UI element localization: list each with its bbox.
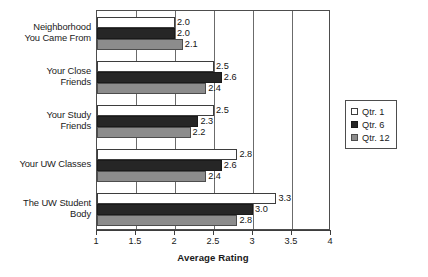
legend-item[interactable]: Qtr. 12 [351, 131, 390, 144]
plot-area: 2.02.02.12.52.62.42.52.32.22.82.62.43.33… [96, 10, 330, 230]
x-axis-tick-label: 2 [171, 236, 176, 246]
bar-row: 2.6 [97, 160, 331, 171]
category-label: The UW StudentBody [0, 197, 91, 220]
x-axis-tick-label: 1 [93, 236, 98, 246]
x-axis-tick [213, 230, 214, 235]
x-axis-tick-label: 3 [249, 236, 254, 246]
bar-value-label: 2.8 [237, 149, 252, 159]
bar-row: 2.0 [97, 28, 331, 39]
chart-legend: Qtr. 1Qtr. 6Qtr. 12 [345, 100, 397, 149]
bar-row: 2.2 [97, 127, 331, 138]
bar-value-label: 2.1 [183, 39, 198, 49]
bar-value-label: 2.4 [206, 83, 221, 93]
bar-value-label: 2.5 [214, 105, 229, 115]
bar-row: 2.5 [97, 105, 331, 116]
bar-value-label: 2.2 [191, 127, 206, 137]
legend-swatch-icon [351, 121, 358, 128]
bar-row: 2.4 [97, 171, 331, 182]
bar[interactable] [97, 160, 222, 171]
bar-row: 2.1 [97, 39, 331, 50]
x-axis-tick [291, 230, 292, 235]
x-axis-tick [252, 230, 253, 235]
category-axis-labels: NeighborhoodYou Came FromYour CloseFrien… [0, 10, 94, 230]
bar-value-label: 2.6 [222, 160, 237, 170]
bar[interactable] [97, 83, 206, 94]
legend-item[interactable]: Qtr. 1 [351, 105, 390, 118]
bar[interactable] [97, 116, 198, 127]
x-axis-line [96, 230, 330, 231]
bar-value-label: 2.4 [206, 171, 221, 181]
bar-row: 2.8 [97, 215, 331, 226]
bar-value-label: 2.0 [175, 28, 190, 38]
bar-row: 2.3 [97, 116, 331, 127]
bar-row: 2.8 [97, 149, 331, 160]
x-axis-tick-label: 2.5 [207, 236, 220, 246]
bar[interactable] [97, 17, 175, 28]
bar-value-label: 2.6 [222, 72, 237, 82]
bar[interactable] [97, 149, 237, 160]
bar[interactable] [97, 215, 237, 226]
bar-value-label: 2.8 [237, 215, 252, 225]
category-label: Your CloseFriends [0, 65, 91, 88]
x-axis-tick-label: 1.5 [129, 236, 142, 246]
bar-group: 2.52.62.4 [97, 61, 329, 94]
bar[interactable] [97, 28, 175, 39]
bar-row: 3.0 [97, 204, 331, 215]
x-axis-tick-label: 3.5 [285, 236, 298, 246]
category-label: NeighborhoodYou Came From [0, 21, 91, 44]
x-axis-tick-label: 4 [327, 236, 332, 246]
x-axis-tick [174, 230, 175, 235]
bar-value-label: 2.5 [214, 61, 229, 71]
bar[interactable] [97, 193, 276, 204]
legend-swatch-icon [351, 108, 358, 115]
bar-value-label: 3.3 [276, 193, 291, 203]
legend-label: Qtr. 1 [362, 107, 384, 117]
bar[interactable] [97, 72, 222, 83]
category-label: Your StudyFriends [0, 109, 91, 132]
bar[interactable] [97, 204, 253, 215]
bar-group: 2.82.62.4 [97, 149, 329, 182]
bar[interactable] [97, 61, 214, 72]
bar-row: 3.3 [97, 193, 331, 204]
bar-row: 2.0 [97, 17, 331, 28]
bar-group: 2.02.02.1 [97, 17, 329, 50]
bar-value-label: 3.0 [253, 204, 268, 214]
bar[interactable] [97, 127, 191, 138]
x-axis-tick [135, 230, 136, 235]
x-axis-tick [330, 230, 331, 235]
bar-row: 2.5 [97, 61, 331, 72]
bar[interactable] [97, 171, 206, 182]
legend-swatch-icon [351, 134, 358, 141]
bar-value-label: 2.3 [198, 116, 213, 126]
legend-label: Qtr. 12 [362, 133, 390, 143]
bar-chart: NeighborhoodYou Came FromYour CloseFrien… [0, 0, 428, 277]
category-label: Your UW Classes [0, 158, 91, 170]
bar-group: 3.33.02.8 [97, 193, 329, 226]
x-axis-tick [96, 230, 97, 235]
bar[interactable] [97, 105, 214, 116]
bar[interactable] [97, 39, 183, 50]
bar-row: 2.4 [97, 83, 331, 94]
legend-label: Qtr. 6 [362, 120, 384, 130]
bar-row: 2.6 [97, 72, 331, 83]
bar-group: 2.52.32.2 [97, 105, 329, 138]
x-axis-title: Average Rating [96, 252, 330, 263]
legend-item[interactable]: Qtr. 6 [351, 118, 390, 131]
bar-value-label: 2.0 [175, 17, 190, 27]
